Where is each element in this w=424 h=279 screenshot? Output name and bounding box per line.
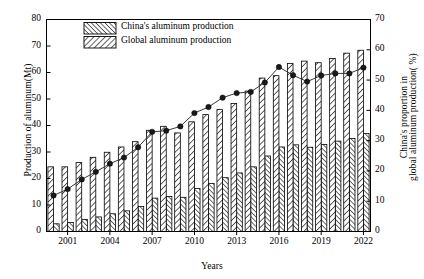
proportion-marker-2004	[107, 161, 112, 166]
bar-china-2019	[321, 145, 327, 232]
bar-china-2005	[124, 211, 130, 232]
proportion-marker-2020	[333, 71, 338, 76]
bar-china-2008	[166, 197, 172, 232]
proportion-marker-2000	[51, 193, 56, 198]
bar-china-2003	[96, 217, 102, 232]
bar-global-2012	[217, 110, 223, 232]
y-axis-right-title-line2: global aluminum production( %)	[408, 37, 418, 197]
xtick-label-2010: 2010	[174, 236, 214, 246]
ytick-label-right-30: 30	[375, 134, 395, 144]
bar-global-2006	[132, 142, 138, 232]
bar-global-2003	[90, 157, 96, 231]
ytick-label-left-30: 30	[8, 146, 41, 156]
bar-china-2006	[138, 207, 144, 232]
bar-global-2016	[273, 76, 279, 232]
bar-global-2002	[76, 163, 82, 232]
bar-china-2018	[307, 147, 313, 231]
ytick-label-right-50: 50	[375, 74, 395, 84]
proportion-marker-2021	[347, 71, 352, 76]
ytick-label-right-0: 0	[375, 225, 395, 235]
bar-china-2012	[223, 178, 229, 232]
bar-global-2015	[259, 78, 265, 231]
bar-china-2007	[152, 198, 158, 231]
xtick-label-2001: 2001	[48, 236, 88, 246]
xtick-label-2022: 2022	[343, 236, 383, 246]
bar-china-2016	[279, 147, 285, 232]
proportion-marker-2019	[319, 73, 324, 78]
xtick-label-2013: 2013	[217, 236, 257, 246]
bar-global-2007	[147, 130, 153, 231]
proportion-marker-2016	[276, 64, 281, 69]
proportion-marker-2010	[192, 110, 197, 115]
bar-global-2013	[231, 104, 237, 232]
proportion-marker-2007	[149, 129, 154, 134]
bar-china-2010	[194, 189, 200, 232]
legend-swatch-china	[84, 23, 116, 35]
bar-china-2001	[68, 222, 74, 231]
bar-global-2008	[161, 126, 167, 231]
bar-china-2021	[349, 138, 355, 231]
bar-china-2013	[237, 173, 243, 232]
bar-global-2019	[316, 63, 322, 232]
bar-china-2015	[265, 156, 271, 232]
proportion-marker-2015	[262, 80, 267, 85]
proportion-marker-2018	[304, 79, 309, 84]
proportion-marker-2022	[361, 65, 366, 70]
legend-label-global: Global aluminum production	[121, 35, 231, 45]
legend-label-china: China's aluminum production	[121, 21, 234, 31]
xtick-label-2007: 2007	[132, 236, 172, 246]
bar-global-2010	[189, 122, 195, 232]
proportion-marker-2008	[164, 128, 169, 133]
bar-global-2022	[358, 50, 364, 231]
bar-global-2018	[301, 61, 307, 231]
chart-legend	[84, 23, 116, 49]
ytick-label-left-70: 70	[8, 40, 41, 50]
bar-global-2011	[203, 115, 209, 232]
ytick-label-right-70: 70	[375, 13, 395, 23]
ytick-label-left-40: 40	[8, 119, 41, 129]
xtick-label-2004: 2004	[90, 236, 130, 246]
ytick-label-left-80: 80	[8, 13, 41, 23]
proportion-marker-2011	[206, 104, 211, 109]
ytick-label-right-20: 20	[375, 164, 395, 174]
ytick-label-right-40: 40	[375, 104, 395, 114]
bar-china-2022	[363, 133, 369, 231]
bar-china-2000	[54, 224, 60, 232]
x-axis-title: Years	[0, 261, 424, 271]
ytick-label-right-10: 10	[375, 195, 395, 205]
bars-china-series	[54, 133, 370, 231]
bar-global-2014	[245, 91, 251, 231]
proportion-marker-2013	[234, 90, 239, 95]
bar-global-2001	[62, 167, 68, 232]
ytick-label-left-20: 20	[8, 172, 41, 182]
legend-swatch-global	[84, 37, 116, 49]
bar-china-2004	[110, 214, 116, 232]
proportion-marker-2005	[121, 155, 126, 160]
chart-figure: Production of aluminum(Mt) China's propo…	[0, 0, 424, 279]
proportion-marker-2001	[65, 186, 70, 191]
ytick-label-left-50: 50	[8, 93, 41, 103]
bar-china-2017	[293, 145, 299, 232]
proportion-marker-2006	[135, 145, 140, 150]
ytick-label-right-60: 60	[375, 43, 395, 53]
bar-china-2002	[82, 220, 88, 232]
ytick-label-left-0: 0	[8, 225, 41, 235]
bar-global-2021	[344, 53, 350, 231]
bar-china-2020	[335, 141, 341, 231]
xtick-label-2019: 2019	[301, 236, 341, 246]
xtick-label-2016: 2016	[259, 236, 299, 246]
proportion-marker-2014	[248, 89, 253, 94]
bar-china-2011	[209, 184, 215, 232]
bar-global-2009	[175, 133, 181, 232]
proportion-marker-2009	[178, 124, 183, 129]
bar-china-2009	[180, 197, 186, 231]
bar-china-2014	[251, 167, 257, 232]
bar-global-2020	[330, 58, 336, 231]
proportion-marker-2012	[220, 95, 225, 100]
bar-global-2017	[287, 63, 293, 231]
ytick-label-left-60: 60	[8, 66, 41, 76]
proportion-marker-2002	[79, 177, 84, 182]
proportion-marker-2017	[290, 73, 295, 78]
bar-global-2000	[48, 167, 54, 232]
proportion-marker-2003	[93, 169, 98, 174]
